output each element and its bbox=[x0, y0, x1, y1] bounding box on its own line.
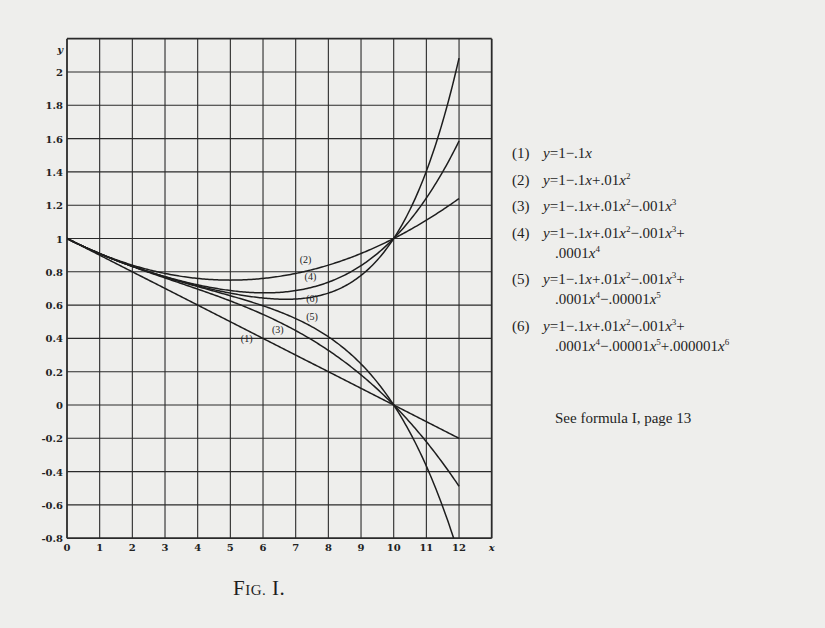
y-tick-label: 0.2 bbox=[46, 367, 63, 378]
y-tick-label: 2 bbox=[56, 67, 63, 78]
y-tick-label: 0.4 bbox=[46, 333, 63, 344]
legend-item-6: (6) y=1−.1x+.01x2−.001x3+.0001x4−.00001x… bbox=[512, 316, 729, 356]
curve-label-5: (5) bbox=[306, 311, 318, 323]
y-tick-label: 1.4 bbox=[46, 167, 63, 178]
legend-formula: y=1−.1x+.01x2−.001x3+.0001x4 bbox=[543, 223, 685, 263]
legend-formula: y=1−.1x+.01x2 bbox=[543, 170, 630, 190]
x-tick-label: 2 bbox=[129, 542, 136, 553]
legend-formula: y=1−.1x+.01x2−.001x3+.0001x4−.00001x5+.0… bbox=[543, 316, 729, 356]
legend-item-3: (3) y=1−.1x+.01x2−.001x3 bbox=[512, 196, 729, 216]
legend-item-2: (2) y=1−.1x+.01x2 bbox=[512, 170, 729, 190]
y-tick-label: -0.6 bbox=[41, 500, 63, 511]
y-tick-label: 0 bbox=[56, 400, 63, 411]
legend-num: (5) bbox=[512, 269, 543, 309]
x-tick-label: 4 bbox=[194, 542, 201, 553]
legend-formula: y=1−.1x+.01x2−.001x3+.0001x4−.00001x5 bbox=[543, 269, 685, 309]
legend-item-4: (4) y=1−.1x+.01x2−.001x3+.0001x4 bbox=[512, 223, 729, 263]
figure-caption: FIG. I. bbox=[233, 576, 285, 601]
grid bbox=[67, 39, 492, 539]
curve-label-6: (6) bbox=[306, 293, 318, 305]
x-tick-label: 6 bbox=[260, 542, 267, 553]
x-axis-label: x bbox=[488, 542, 496, 553]
y-tick-label: 1.2 bbox=[46, 200, 63, 211]
y-tick-label: -0.4 bbox=[41, 467, 63, 478]
legend-num: (3) bbox=[512, 196, 543, 216]
x-tick-label: 9 bbox=[358, 542, 365, 553]
x-tick-label: 7 bbox=[292, 542, 299, 553]
caption-number: I. bbox=[266, 576, 285, 600]
y-tick-label: 0.6 bbox=[46, 300, 63, 311]
caption-initial: F bbox=[233, 576, 245, 600]
y-axis-label: y bbox=[56, 44, 64, 55]
legend-formula: y=1−.1x bbox=[543, 143, 592, 163]
y-tick-label: 1.8 bbox=[46, 100, 63, 111]
curve-label-1: (1) bbox=[241, 333, 253, 345]
x-tick-label: 0 bbox=[64, 542, 71, 553]
y-tick-label: -0.8 bbox=[41, 533, 63, 544]
y-tick-label: 1.6 bbox=[46, 134, 63, 145]
y-tick-label: 1 bbox=[56, 234, 63, 245]
x-tick-label: 5 bbox=[227, 542, 234, 553]
x-tick-label: 11 bbox=[419, 542, 433, 553]
caption-smallcaps: IG. bbox=[245, 582, 266, 598]
curve-label-2: (2) bbox=[300, 254, 312, 266]
curve-label-3: (3) bbox=[272, 324, 284, 336]
x-tick-label: 1 bbox=[96, 542, 103, 553]
x-tick-label: 12 bbox=[452, 542, 466, 553]
y-tick-label: 0.8 bbox=[46, 267, 63, 278]
legend-num: (2) bbox=[512, 170, 543, 190]
legend-item-1: (1) y=1−.1x bbox=[512, 143, 729, 163]
y-tick-label: -0.2 bbox=[41, 433, 63, 444]
legend-num: (6) bbox=[512, 316, 543, 356]
curve-label-4: (4) bbox=[305, 271, 317, 283]
legend-num: (1) bbox=[512, 143, 543, 163]
legend: (1) y=1−.1x (2) y=1−.1x+.01x2 (3) y=1−.1… bbox=[512, 143, 729, 362]
legend-item-5: (5) y=1−.1x+.01x2−.001x3+.0001x4−.00001x… bbox=[512, 269, 729, 309]
x-tick-label: 10 bbox=[387, 542, 401, 553]
x-tick-label: 8 bbox=[325, 542, 332, 553]
legend-formula: y=1−.1x+.01x2−.001x3 bbox=[543, 196, 676, 216]
x-tick-label: 3 bbox=[162, 542, 169, 553]
legend-num: (4) bbox=[512, 223, 543, 263]
formula-reference-note: See formula I, page 13 bbox=[555, 410, 691, 427]
